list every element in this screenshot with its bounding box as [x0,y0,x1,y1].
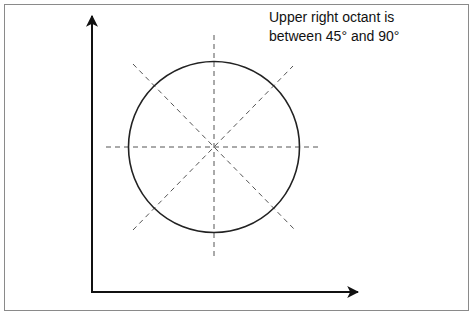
octant-dashed-lines [106,35,320,257]
caption-line-1: Upper right octant is [269,8,399,27]
octant-diagram [0,0,473,320]
diagonal-dashed-line-up [133,66,293,230]
caption: Upper right octant is between 45° and 90… [269,8,399,46]
caption-line-2: between 45° and 90° [269,27,399,46]
